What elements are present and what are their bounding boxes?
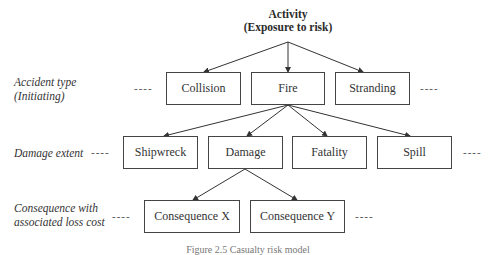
level-label-line: Consequence with (14, 201, 105, 215)
dash-right-accident: ---- (420, 82, 439, 94)
level-label-damage-extent: Damage extent (14, 146, 83, 160)
node-collision: Collision (166, 72, 241, 105)
dash-right-damage: ---- (463, 146, 482, 158)
node-stranding: Stranding (335, 72, 410, 105)
root-subtitle: (Exposure to risk) (228, 21, 348, 34)
dash-right-consequence: ---- (355, 210, 374, 222)
figure-caption: Figure 2.5 Casualty risk model (0, 244, 496, 255)
root-title: Activity (228, 8, 348, 21)
node-spill: Spill (377, 136, 452, 169)
node-consequence-x: Consequence X (144, 200, 240, 233)
dash-left-damage: ---- (91, 146, 110, 158)
level-label-line: (Initiating) (14, 89, 76, 103)
level-label-line: Damage extent (14, 146, 83, 160)
level-label-line: Accident type (14, 75, 76, 89)
node-damage: Damage (208, 136, 283, 169)
dash-left-consequence: ---- (112, 210, 131, 222)
node-fire: Fire (251, 72, 325, 105)
root-node-activity: Activity (Exposure to risk) (228, 8, 348, 34)
level-label-consequence: Consequence with associated loss cost (14, 201, 105, 229)
dash-left-accident: ---- (134, 82, 153, 94)
node-fatality: Fatality (292, 136, 367, 169)
node-consequence-y: Consequence Y (250, 200, 345, 233)
level-label-accident-type: Accident type (Initiating) (14, 75, 76, 103)
node-shipwreck: Shipwreck (123, 136, 198, 169)
level-label-line: associated loss cost (14, 215, 105, 229)
